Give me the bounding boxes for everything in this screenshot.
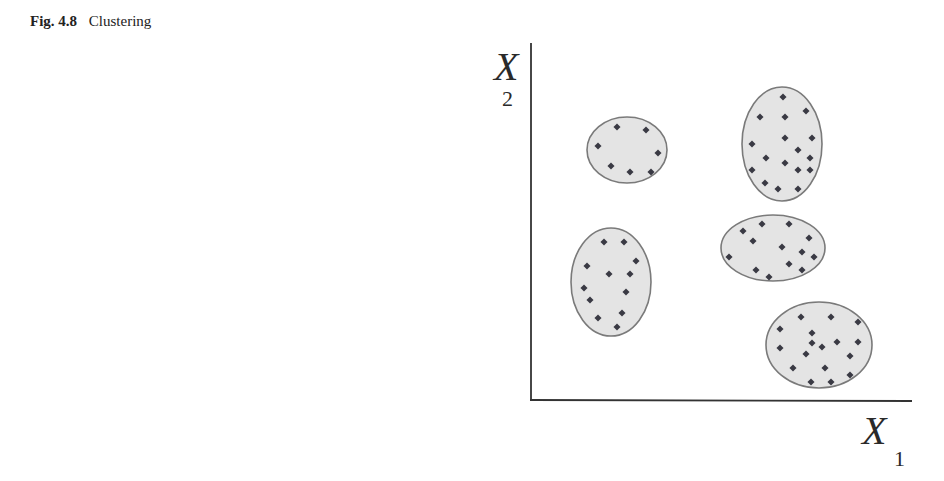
clusters <box>571 87 872 388</box>
cluster-top-right <box>742 87 822 201</box>
axes: X 2 X 1 <box>492 43 912 471</box>
cluster-ellipse <box>571 228 651 336</box>
cluster-ellipse <box>721 215 825 281</box>
cluster-bottom-left <box>571 228 651 336</box>
x-axis-subscript: 1 <box>894 446 905 471</box>
x-axis-line <box>530 400 912 401</box>
cluster-bottom-right <box>766 302 872 388</box>
y-axis-subscript: 2 <box>502 86 513 111</box>
cluster-ellipse <box>766 302 872 388</box>
x-axis-label: X <box>860 408 888 453</box>
clustering-diagram: X 2 X 1 <box>0 0 944 481</box>
cluster-ellipse <box>587 117 667 183</box>
y-axis-label: X <box>492 44 520 89</box>
cluster-top-left <box>587 117 667 183</box>
cluster-middle-right <box>721 215 825 281</box>
